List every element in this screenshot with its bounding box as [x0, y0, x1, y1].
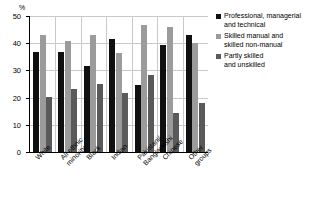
bar-group [106, 16, 131, 152]
legend-label: Professional, managerial and technical [224, 12, 301, 29]
plot-area: 01020304050 [30, 16, 208, 152]
y-tick-label: 40 [13, 40, 21, 47]
legend-item: Skilled manual and skilled non-manual [216, 32, 322, 49]
bar [141, 25, 147, 152]
y-tick-label: 10 [13, 122, 21, 129]
y-tick-label: 20 [13, 95, 21, 102]
bar [58, 52, 64, 152]
bar [109, 39, 115, 152]
bar-group [132, 16, 157, 152]
y-axis-unit-label: % [19, 4, 25, 12]
bar [40, 35, 46, 152]
y-tick-label: 0 [17, 149, 21, 156]
chart-legend: Professional, managerial and technicalSk… [216, 12, 322, 72]
bar-chart-figure: % 01020304050 WhiteAll ethnic minorityBl… [0, 0, 323, 211]
bar [90, 35, 96, 152]
y-tick-label: 30 [13, 67, 21, 74]
bar [84, 66, 90, 152]
bar [192, 43, 198, 152]
legend-item: Professional, managerial and technical [216, 12, 322, 29]
bar-group [183, 16, 208, 152]
bar [116, 53, 122, 152]
bar-group [55, 16, 80, 152]
y-tick-label: 50 [13, 13, 21, 20]
bar [186, 35, 192, 152]
bar [33, 52, 39, 152]
legend-item: Partly skilled and unskilled [216, 52, 322, 69]
bar [65, 41, 71, 152]
bar [97, 84, 103, 152]
legend-label: Partly skilled and unskilled [224, 52, 265, 69]
legend-swatch-icon [216, 14, 221, 19]
legend-label: Skilled manual and skilled non-manual [224, 32, 283, 49]
bar-group [30, 16, 55, 152]
bar-group [81, 16, 106, 152]
legend-swatch-icon [216, 34, 221, 39]
bar [135, 85, 141, 152]
y-tick-mark: 0 [26, 152, 30, 153]
legend-swatch-icon [216, 54, 221, 59]
